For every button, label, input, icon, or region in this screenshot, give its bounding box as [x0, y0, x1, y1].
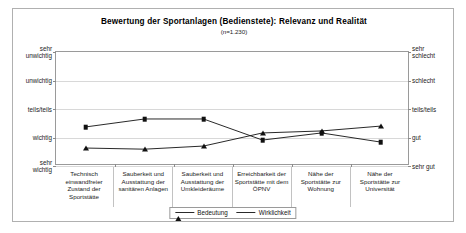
legend-marker-square-icon: [237, 209, 256, 216]
x-axis-category-1: Technisch einwandfreier Zustand der Spor…: [55, 167, 113, 207]
y-axis-label-right: schlecht: [412, 77, 460, 84]
data-point-wirklichkeit: [260, 138, 265, 143]
x-axis-category-2: Sauberkeit und Ausstattung der sanitären…: [113, 167, 172, 207]
data-point-bedeutung: [142, 147, 148, 152]
y-axis-label-left: unwichtig: [6, 77, 52, 84]
y-axis-label-left: sehr wichtig: [6, 159, 52, 174]
data-point-bedeutung: [260, 130, 266, 135]
data-point-wirklichkeit: [142, 117, 147, 122]
chart-legend: Bedeutung Wirklichkeit: [169, 207, 296, 219]
legend-item-bedeutung: Bedeutung: [175, 209, 227, 216]
legend-label-bedeutung: Bedeutung: [197, 209, 227, 216]
y-axis-label-right: sehr schlecht: [412, 45, 460, 60]
chart-subtitle: (n=1.230): [13, 28, 455, 35]
x-axis-category-6: Nähe der Sportstätte zur Universität: [350, 167, 409, 207]
chart-container: Bewertung der Sportanlagen (Bedienstete)…: [12, 8, 454, 222]
legend-marker-triangle-icon: [175, 209, 194, 216]
legend-item-wirklichkeit: Wirklichkeit: [237, 209, 291, 216]
data-point-wirklichkeit: [378, 140, 383, 145]
data-point-wirklichkeit: [201, 117, 206, 122]
data-point-wirklichkeit: [83, 125, 88, 130]
y-axis-label-left: teils/teils: [6, 106, 52, 113]
legend-label-wirklichkeit: Wirklichkeit: [259, 209, 291, 216]
y-axis-label-left: wichtig: [6, 134, 52, 141]
y-axis-label-left: sehr unwichtig: [6, 45, 52, 60]
chart-title: Bewertung der Sportanlagen (Bedienstete)…: [13, 17, 455, 26]
series-line-wirklichkeit: [86, 119, 381, 142]
plot-area: sehr unwichtigsehr schlechtunwichtigschl…: [55, 51, 409, 165]
series-lines: [56, 52, 410, 166]
x-axis-category-5: Nähe der Sportstätte zur Wohnung: [291, 167, 350, 207]
data-point-wirklichkeit: [319, 131, 324, 136]
data-point-bedeutung: [83, 146, 89, 151]
x-axis-category-3: Sauberkeit und Ausstattung der Umkleider…: [172, 167, 231, 207]
y-axis-label-right: gut: [412, 134, 460, 141]
x-axis-category-4: Erreichbarkeit der Sportstätte mit dem Ö…: [232, 167, 291, 207]
data-point-bedeutung: [378, 124, 384, 129]
y-axis-label-right: teils/teils: [412, 106, 460, 113]
data-point-bedeutung: [201, 144, 207, 149]
y-axis-label-right: sehr gut: [412, 163, 460, 170]
x-axis-category-labels: Technisch einwandfreier Zustand der Spor…: [55, 167, 409, 207]
